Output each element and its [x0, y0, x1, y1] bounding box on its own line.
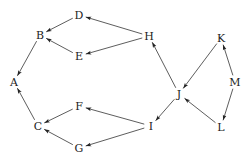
edge-M-to-L: [223, 89, 233, 121]
node-I: I: [149, 120, 153, 133]
edge-H-to-E: [86, 38, 143, 54]
edge-C-to-A: [17, 88, 34, 120]
node-G: G: [75, 142, 84, 155]
edge-I-to-G: [86, 128, 145, 146]
node-D: D: [75, 9, 84, 22]
edge-G-to-C: [44, 129, 73, 144]
node-H: H: [144, 30, 154, 43]
edge-I-to-F: [86, 108, 145, 124]
node-B: B: [36, 29, 44, 42]
nodes-layer: ABCDEFGHIJKLM: [9, 9, 241, 155]
node-A: A: [9, 76, 19, 89]
node-J: J: [176, 88, 181, 101]
node-L: L: [217, 121, 225, 134]
node-C: C: [34, 120, 42, 133]
directed-graph: ABCDEFGHIJKLM: [0, 0, 248, 158]
edge-L-to-J: [185, 98, 216, 122]
node-K: K: [217, 32, 226, 45]
node-E: E: [75, 50, 83, 63]
edge-D-to-B: [46, 18, 73, 32]
node-M: M: [229, 76, 240, 89]
edge-F-to-C: [44, 109, 72, 123]
edge-J-to-I: [156, 99, 175, 120]
edges-layer: [17, 17, 233, 146]
edge-H-to-D: [86, 17, 143, 34]
edge-M-to-K: [223, 45, 233, 76]
edge-J-to-H: [152, 42, 176, 88]
edge-B-to-A: [17, 41, 36, 76]
node-F: F: [75, 100, 83, 113]
edge-E-to-B: [46, 38, 73, 52]
edge-K-to-J: [183, 44, 217, 89]
